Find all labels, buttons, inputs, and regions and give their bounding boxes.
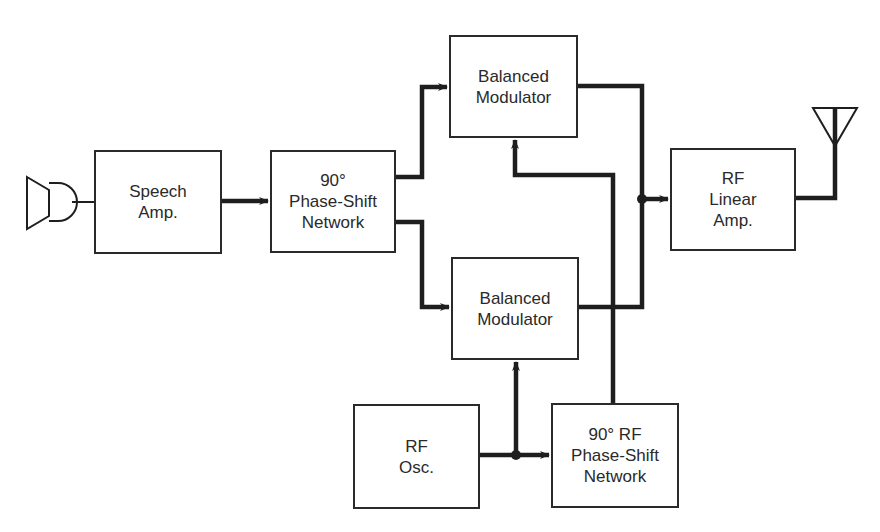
wire-bm-bottom-output	[579, 199, 642, 307]
rf-oscillator-block: RF Osc.	[353, 404, 480, 509]
speech-amp-block: Speech Amp.	[94, 150, 222, 254]
ssb-transmitter-diagram: Speech Amp. 90° Phase-Shift Network Bala…	[0, 0, 880, 532]
balanced-modulator-bottom-label: Balanced Modulator	[477, 288, 553, 330]
junction-dot-summer	[637, 194, 647, 204]
wire-bm-top-output	[578, 86, 642, 199]
rf-oscillator-label: RF Osc.	[399, 436, 434, 478]
balanced-modulator-top-label: Balanced Modulator	[476, 66, 552, 108]
microphone-icon	[27, 177, 77, 229]
rf-phase-shift-block: 90° RF Phase-Shift Network	[551, 403, 679, 508]
af-phase-shift-block: 90° Phase-Shift Network	[270, 150, 396, 253]
wire-phase-shift-to-bm-top	[396, 87, 447, 177]
rf-phase-shift-label: 90° RF Phase-Shift Network	[571, 424, 659, 487]
speech-amp-label: Speech Amp.	[129, 181, 187, 223]
rf-linear-amp-label: RF Linear Amp.	[709, 168, 756, 231]
balanced-modulator-top-block: Balanced Modulator	[449, 35, 578, 138]
balanced-modulator-bottom-block: Balanced Modulator	[451, 257, 579, 360]
wire-phase-shift-to-bm-bottom	[396, 222, 449, 307]
af-phase-shift-label: 90° Phase-Shift Network	[289, 170, 377, 233]
rf-linear-amp-block: RF Linear Amp.	[670, 148, 796, 251]
wire-rf-linear-to-antenna	[796, 108, 835, 198]
